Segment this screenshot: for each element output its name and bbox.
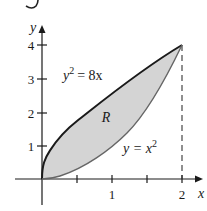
cropped-heading-fragment <box>26 0 38 8</box>
x-tick-label-1: 1 <box>109 187 116 202</box>
region-r-shading <box>42 45 182 179</box>
y-axis-label: y <box>28 20 37 35</box>
y-axis-arrow-icon <box>39 25 46 33</box>
x-axis-arrow-icon <box>195 176 203 183</box>
x-tick-label-2: 2 <box>179 187 186 202</box>
lower-curve-label: y = x2 <box>121 138 157 156</box>
region-diagram: 1 2 1 2 3 4 x y y2= 8x y = x2 R <box>0 0 207 211</box>
upper-curve-label: y2= 8x <box>61 65 103 83</box>
region-label-r: R <box>101 110 111 125</box>
y-tick-label-1: 1 <box>28 139 35 154</box>
y-tick-label-4: 4 <box>28 38 35 53</box>
y-tick-label-3: 3 <box>28 72 35 87</box>
x-axis-label: x <box>197 186 205 201</box>
y-tick-label-2: 2 <box>28 106 35 121</box>
